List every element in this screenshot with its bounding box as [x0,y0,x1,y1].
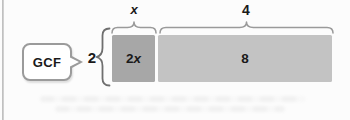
tape-segment-8-label: 8 [241,51,249,66]
bleed-through-artifact [55,106,285,112]
left-curly-brace-icon [95,27,111,87]
page-edge-line [2,0,4,120]
top-curly-brace-x-icon [111,20,157,34]
tape-segment-2x-variable: x [134,51,142,66]
tape-segment-2x: 2x [112,35,155,82]
gcf-callout-label: GCF [33,55,61,70]
callout-tail-icon [69,57,79,67]
segment-width-label-x: x [125,2,143,17]
gcf-callout-bubble: GCF [22,43,72,81]
tape-segment-2x-coefficient: 2 [126,51,134,66]
top-curly-brace-4-icon [159,20,334,34]
bleed-through-artifact [40,96,305,102]
segment-width-label-4: 4 [237,2,255,18]
tape-diagram-canvas: GCF 2 x 4 2x 8 [0,0,350,120]
tape-segment-8: 8 [158,35,332,82]
